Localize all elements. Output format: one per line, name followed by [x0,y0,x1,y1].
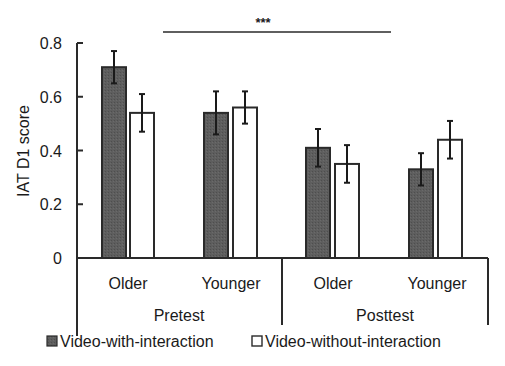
category-label: Older [313,275,353,292]
bar-chart: IAT D1 score 00.20.40.60.8 OlderYoungerP… [0,0,505,366]
y-tick-label: 0 [53,250,62,267]
legend-swatch-dark [47,336,57,346]
bar-without-interaction [233,108,257,259]
bars [102,51,462,258]
bar-without-interaction [130,113,154,258]
group-label: Posttest [356,307,414,324]
legend-item-with-interaction: Video-with-interaction [47,333,214,350]
y-tick-labels: 00.20.40.60.8 [40,35,62,267]
significance-stars: *** [255,15,271,30]
y-tick-label: 0.8 [40,35,62,52]
legend-label: Video-with-interaction [60,333,214,350]
y-axis-label: IAT D1 score [15,105,32,197]
y-tick-label: 0.2 [40,196,62,213]
significance-annotation: *** [163,15,391,32]
category-label: Younger [201,275,261,292]
group-label: Pretest [154,307,205,324]
legend-item-without-interaction: Video-without-interaction [252,333,441,350]
y-tick-label: 0.6 [40,89,62,106]
legend-label: Video-without-interaction [265,333,441,350]
category-labels: OlderYoungerPretestOlderYoungerPosttest [108,275,467,324]
bar-with-interaction [102,67,126,258]
legend: Video-with-interaction Video-without-int… [47,333,441,350]
category-label: Younger [407,275,467,292]
legend-swatch-white [252,336,262,346]
category-label: Older [108,275,148,292]
y-tick-label: 0.4 [40,143,62,160]
